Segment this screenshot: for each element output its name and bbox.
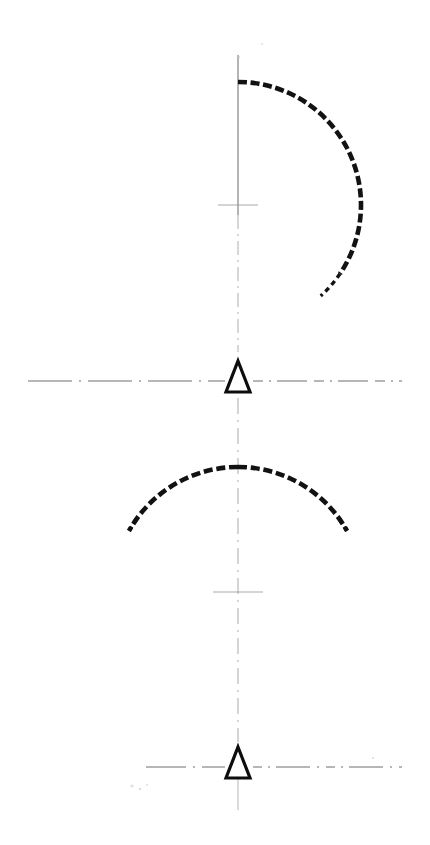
scan-speck bbox=[146, 784, 148, 786]
datum-triangle-lower bbox=[226, 747, 250, 778]
technical-drawing-canvas bbox=[0, 0, 430, 845]
upper-arc-path bbox=[238, 82, 361, 274]
lower-arc-path-right bbox=[238, 467, 347, 531]
lower-arc-tail-left bbox=[129, 517, 138, 530]
drawing-svg bbox=[0, 0, 430, 845]
centerlines-group bbox=[28, 55, 402, 810]
datum-triangle-upper bbox=[226, 361, 250, 392]
upper-arc-group bbox=[238, 82, 361, 296]
lower-arc-path-left bbox=[129, 467, 238, 531]
scan-speck bbox=[372, 757, 374, 759]
scan-speck bbox=[139, 788, 141, 790]
datum-symbols-group bbox=[226, 361, 250, 778]
upper-arc-tail bbox=[321, 274, 340, 296]
scan-speck bbox=[261, 43, 263, 45]
scan-speck bbox=[130, 784, 133, 787]
scan-specks-group bbox=[130, 43, 374, 790]
scan-speck bbox=[238, 56, 241, 59]
lower-arc-tail-right bbox=[338, 517, 347, 530]
